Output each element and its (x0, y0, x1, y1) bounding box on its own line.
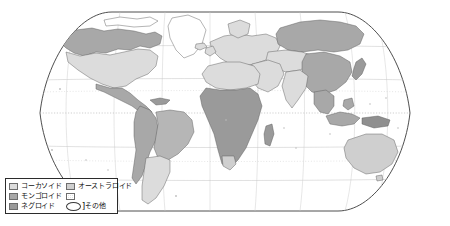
legend-item-mongoloid: モンゴロイド (9, 191, 62, 201)
region-new-zealand-south (400, 176, 410, 188)
region-arctic-islands (104, 17, 158, 27)
legend-swatch-caucasoid (9, 183, 18, 190)
legend-label-caucasoid: コーカソイド (21, 182, 62, 190)
legend-swatch-other-ellipse (66, 202, 81, 211)
region-new-zealand (406, 162, 416, 178)
world-map-figure: コーカソイド モンゴロイド ネグロイド オーストラロイド (0, 0, 450, 226)
legend-item-other-hatch (66, 191, 132, 201)
legend-label-negroid: ネグロイド (21, 202, 55, 210)
legend-item-negroid: ネグロイド (9, 201, 62, 211)
region-tasmania (376, 175, 383, 181)
legend-swatch-negroid (9, 203, 18, 210)
legend-item-caucasoid: コーカソイド (9, 181, 62, 191)
legend-column-left: コーカソイド モンゴロイド ネグロイド (9, 181, 62, 211)
map-legend: コーカソイド モンゴロイド ネグロイド オーストラロイド (5, 178, 118, 214)
legend-swatch-mongoloid (9, 193, 18, 200)
legend-swatch-other-hatch (66, 193, 75, 200)
legend-column-right: オーストラロイド ] その他 (66, 181, 132, 211)
legend-label-australoid: オーストラロイド (78, 182, 132, 190)
legend-label-other: その他 (85, 202, 105, 210)
legend-item-other: ] その他 (66, 201, 132, 211)
legend-swatch-australoid (66, 183, 75, 190)
legend-item-australoid: オーストラロイド (66, 181, 132, 191)
legend-label-mongoloid: モンゴロイド (21, 192, 62, 200)
